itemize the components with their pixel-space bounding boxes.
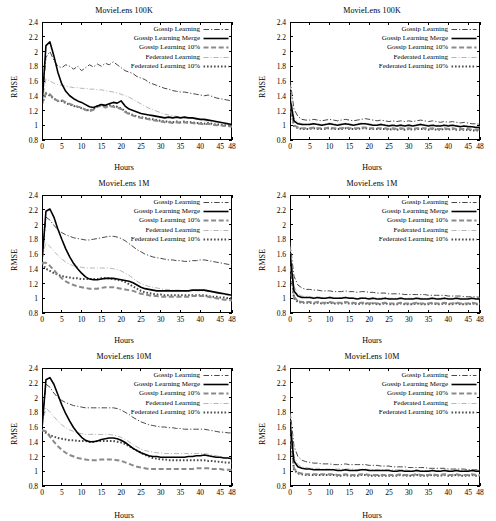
legend-item: Gossip Learning Merge: [131, 34, 229, 43]
y-tick-label: 2: [282, 393, 286, 402]
chart-legend: Gossip LearningGossip Learning MergeGoss…: [131, 25, 229, 71]
x-tick-label: 15: [346, 315, 354, 324]
legend-line-sample: [203, 54, 229, 61]
x-tick-label: 45: [464, 315, 472, 324]
panel-title: MovieLens 1M: [248, 179, 496, 188]
legend-label: Federated Learning: [145, 53, 200, 62]
chart-panel: MovieLens 10MRMSEHours0.811.21.41.61.822…: [248, 346, 496, 521]
y-tick-label: 1.8: [29, 62, 38, 71]
x-tick-label: 25: [137, 488, 145, 497]
chart-legend: Gossip LearningGossip Learning MergeGoss…: [131, 198, 229, 244]
y-tick-label: 1.2: [277, 279, 286, 288]
legend-label: Federated Learning 10%: [379, 408, 448, 417]
legend-item: Gossip Learning 10%: [131, 389, 229, 398]
x-tick-label: 25: [137, 315, 145, 324]
legend-label: Gossip Learning: [402, 198, 448, 207]
legend-label: Gossip Learning 10%: [387, 216, 448, 225]
y-tick-label: 2: [282, 47, 286, 56]
panel-title: MovieLens 10M: [0, 352, 248, 361]
x-tick-label: 40: [445, 142, 453, 151]
y-tick-label: 1.8: [29, 235, 38, 244]
plot-area: 0.811.21.41.61.822.22.405101520253035404…: [290, 368, 480, 486]
legend-line-sample: [203, 199, 229, 206]
x-tick-label: 35: [177, 315, 185, 324]
x-tick-label: 40: [445, 315, 453, 324]
x-tick-label: 20: [117, 315, 125, 324]
legend-line-sample: [203, 35, 229, 42]
legend-item: Federated Learning: [131, 399, 229, 408]
legend-item: Gossip Learning: [379, 25, 477, 34]
x-tick-label: 15: [346, 142, 354, 151]
x-tick-label: 0: [40, 315, 44, 324]
y-tick-label: 1.2: [29, 279, 38, 288]
legend-line-sample: [451, 372, 477, 379]
x-tick-label: 48: [228, 488, 236, 497]
legend-item: Gossip Learning: [379, 371, 477, 380]
y-axis-label: RMSE: [10, 423, 19, 445]
legend-label: Gossip Learning: [154, 25, 200, 34]
legend-item: Federated Learning 10%: [379, 62, 477, 71]
legend-item: Gossip Learning Merge: [379, 380, 477, 389]
y-tick-label: 1: [282, 294, 286, 303]
y-tick-label: 2.4: [29, 18, 38, 27]
y-tick-label: 2.4: [29, 364, 38, 373]
legend-label: Federated Learning: [393, 53, 448, 62]
series-line: [290, 242, 480, 297]
legend-label: Federated Learning: [145, 226, 200, 235]
x-tick-label: 45: [216, 315, 224, 324]
series-line: [42, 242, 232, 296]
y-tick-label: 2.4: [29, 191, 38, 200]
y-tick-label: 1.8: [277, 235, 286, 244]
x-tick-label: 30: [157, 142, 165, 151]
x-tick-label: 0: [288, 315, 292, 324]
legend-line-sample: [203, 400, 229, 407]
legend-item: Federated Learning: [379, 399, 477, 408]
legend-item: Federated Learning 10%: [131, 408, 229, 417]
y-axis-label: RMSE: [258, 76, 267, 98]
y-tick-label: 2.4: [277, 364, 286, 373]
x-axis-label: Hours: [248, 511, 496, 520]
plot-area: 0.811.21.41.61.822.22.405101520253035404…: [42, 368, 232, 486]
legend-label: Gossip Learning Merge: [382, 207, 448, 216]
y-axis-label: RMSE: [258, 249, 267, 271]
x-tick-label: 35: [425, 315, 433, 324]
x-tick-label: 35: [177, 142, 185, 151]
y-tick-label: 2.2: [277, 32, 286, 41]
y-tick-label: 1.8: [277, 62, 286, 71]
x-tick-label: 40: [197, 142, 205, 151]
y-tick-label: 2.2: [277, 378, 286, 387]
legend-item: Federated Learning: [379, 53, 477, 62]
legend-label: Gossip Learning Merge: [134, 207, 200, 216]
x-tick-label: 48: [476, 488, 484, 497]
legend-item: Gossip Learning 10%: [379, 389, 477, 398]
legend-item: Gossip Learning 10%: [379, 43, 477, 52]
legend-label: Federated Learning: [145, 399, 200, 408]
legend-line-sample: [203, 208, 229, 215]
series-line: [290, 80, 480, 125]
x-tick-label: 20: [117, 488, 125, 497]
legend-item: Federated Learning 10%: [379, 235, 477, 244]
y-tick-label: 0.8: [29, 309, 38, 318]
y-tick-label: 0.8: [277, 482, 286, 491]
y-tick-label: 1.2: [277, 452, 286, 461]
series-line: [42, 94, 232, 126]
y-tick-label: 1.2: [29, 106, 38, 115]
y-tick-label: 0.8: [29, 482, 38, 491]
y-tick-label: 0.8: [277, 309, 286, 318]
x-tick-label: 20: [365, 315, 373, 324]
x-tick-label: 45: [464, 142, 472, 151]
legend-label: Federated Learning: [393, 226, 448, 235]
x-tick-label: 48: [228, 315, 236, 324]
chart-panel: MovieLens 100KRMSEHours0.811.21.41.61.82…: [0, 0, 248, 173]
legend-line-sample: [203, 409, 229, 416]
plot-area: 0.811.21.41.61.822.22.405101520253035404…: [42, 22, 232, 140]
legend-label: Federated Learning 10%: [379, 235, 448, 244]
x-axis-label: Hours: [248, 336, 496, 345]
x-tick-label: 25: [385, 142, 393, 151]
legend-label: Federated Learning: [393, 399, 448, 408]
legend-line-sample: [203, 26, 229, 33]
y-tick-label: 1.6: [277, 423, 286, 432]
legend-label: Gossip Learning Merge: [134, 380, 200, 389]
legend-item: Gossip Learning Merge: [131, 207, 229, 216]
x-tick-label: 48: [476, 315, 484, 324]
